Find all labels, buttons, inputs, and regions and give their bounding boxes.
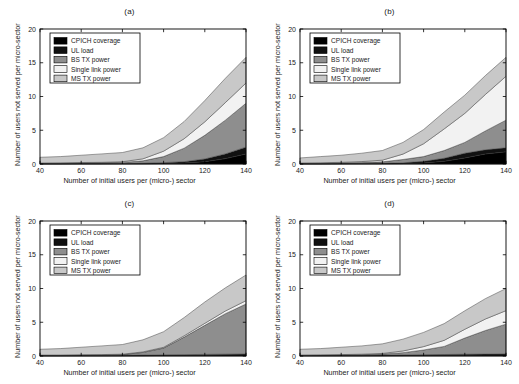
- legend-swatch-single-link-power: [314, 66, 327, 73]
- y-tick-label-d: 10: [288, 285, 296, 292]
- x-tick-label-a: 120: [199, 167, 211, 174]
- legend-label-ul-load: UL load: [71, 47, 94, 54]
- y-tick-label-d: 20: [288, 218, 296, 225]
- x-tick-label-b: 100: [418, 167, 430, 174]
- x-tick-label-d: 120: [459, 359, 471, 366]
- y-tick-label-a: 15: [28, 59, 36, 66]
- legend-label-bs-tx-power: BS TX power: [71, 248, 111, 256]
- plot-area-c: 40608010012014005101520CPICH coverageUL …: [0, 192, 259, 384]
- legend-swatch-ul-load: [54, 239, 67, 246]
- y-tick-label-c: 15: [28, 251, 36, 258]
- y-tick-label-b: 20: [288, 26, 296, 33]
- x-tick-label-d: 60: [337, 359, 345, 366]
- legend-label-cpich-coverage: CPICH coverage: [71, 37, 121, 45]
- legend-swatch-single-link-power: [54, 66, 67, 73]
- x-tick-label-c: 100: [158, 359, 170, 366]
- x-tick-label-b: 40: [296, 167, 304, 174]
- y-tick-label-c: 5: [32, 319, 36, 326]
- legend-swatch-single-link-power: [54, 258, 67, 265]
- x-tick-label-d: 140: [500, 359, 512, 366]
- legend-swatch-bs-tx-power: [314, 56, 327, 63]
- y-tick-label-c: 20: [28, 218, 36, 225]
- legend-label-cpich-coverage: CPICH coverage: [331, 37, 381, 45]
- legend-label-single-link-power: Single link power: [71, 66, 122, 74]
- y-tick-label-b: 0: [292, 161, 296, 168]
- plot-area-b: 40608010012014005101520CPICH coverageUL …: [260, 0, 519, 192]
- y-tick-label-c: 10: [28, 285, 36, 292]
- legend-swatch-ms-tx-power: [54, 267, 67, 274]
- x-tick-label-a: 60: [77, 167, 85, 174]
- y-tick-label-b: 15: [288, 59, 296, 66]
- chart-panel-a: (a) Number of users not served per micro…: [0, 0, 259, 192]
- x-tick-label-c: 60: [77, 359, 85, 366]
- chart-panel-b: (b) Number of users not served per micro…: [260, 0, 519, 192]
- legend-label-bs-tx-power: BS TX power: [71, 56, 111, 64]
- x-tick-label-c: 80: [119, 359, 127, 366]
- legend-swatch-bs-tx-power: [54, 56, 67, 63]
- legend-label-single-link-power: Single link power: [331, 66, 382, 74]
- x-tick-label-a: 100: [158, 167, 170, 174]
- chart-panel-c: (c) Number of users not served per micro…: [0, 192, 259, 384]
- x-tick-label-c: 140: [240, 359, 252, 366]
- legend-swatch-bs-tx-power: [54, 248, 67, 255]
- y-tick-label-a: 0: [32, 161, 36, 168]
- y-tick-label-c: 0: [32, 353, 36, 360]
- legend-label-bs-tx-power: BS TX power: [331, 56, 371, 64]
- x-tick-label-d: 40: [296, 359, 304, 366]
- legend-swatch-cpich-coverage: [314, 230, 327, 237]
- y-tick-label-d: 5: [292, 319, 296, 326]
- legend-label-ms-tx-power: MS TX power: [71, 267, 112, 275]
- x-tick-label-c: 40: [36, 359, 44, 366]
- y-tick-label-b: 10: [288, 93, 296, 100]
- figure-container: (a) Number of users not served per micro…: [0, 0, 519, 384]
- y-tick-label-a: 5: [32, 127, 36, 134]
- legend-label-bs-tx-power: BS TX power: [331, 248, 371, 256]
- plot-area-d: 40608010012014005101520CPICH coverageUL …: [260, 192, 519, 384]
- x-tick-label-c: 120: [199, 359, 211, 366]
- x-tick-label-b: 80: [379, 167, 387, 174]
- legend-label-ul-load: UL load: [331, 239, 354, 246]
- x-tick-label-a: 140: [240, 167, 252, 174]
- legend-label-ul-load: UL load: [71, 239, 94, 246]
- y-tick-label-b: 5: [292, 127, 296, 134]
- legend-swatch-ms-tx-power: [314, 75, 327, 82]
- legend-label-ms-tx-power: MS TX power: [331, 267, 372, 275]
- legend-swatch-ul-load: [314, 239, 327, 246]
- legend-label-cpich-coverage: CPICH coverage: [331, 229, 381, 237]
- legend-label-single-link-power: Single link power: [331, 258, 382, 266]
- legend-swatch-cpich-coverage: [54, 230, 67, 237]
- y-tick-label-d: 15: [288, 251, 296, 258]
- legend-swatch-ul-load: [314, 47, 327, 54]
- legend-swatch-ms-tx-power: [54, 75, 67, 82]
- chart-panel-d: (d) Number of users not served per micro…: [260, 192, 519, 384]
- legend-label-single-link-power: Single link power: [71, 258, 122, 266]
- legend-label-ms-tx-power: MS TX power: [331, 75, 372, 83]
- x-tick-label-a: 40: [36, 167, 44, 174]
- x-tick-label-d: 80: [379, 359, 387, 366]
- y-tick-label-a: 20: [28, 26, 36, 33]
- legend-swatch-single-link-power: [314, 258, 327, 265]
- x-tick-label-b: 120: [459, 167, 471, 174]
- legend-label-ul-load: UL load: [331, 47, 354, 54]
- plot-area-a: 40608010012014005101520CPICH coverageUL …: [0, 0, 259, 192]
- legend-label-cpich-coverage: CPICH coverage: [71, 229, 121, 237]
- legend-swatch-cpich-coverage: [314, 38, 327, 45]
- legend-swatch-cpich-coverage: [54, 38, 67, 45]
- y-tick-label-d: 0: [292, 353, 296, 360]
- legend-label-ms-tx-power: MS TX power: [71, 75, 112, 83]
- x-tick-label-d: 100: [418, 359, 430, 366]
- legend-swatch-ms-tx-power: [314, 267, 327, 274]
- x-tick-label-b: 140: [500, 167, 512, 174]
- legend-swatch-ul-load: [54, 47, 67, 54]
- x-tick-label-b: 60: [337, 167, 345, 174]
- y-tick-label-a: 10: [28, 93, 36, 100]
- x-tick-label-a: 80: [119, 167, 127, 174]
- legend-swatch-bs-tx-power: [314, 248, 327, 255]
